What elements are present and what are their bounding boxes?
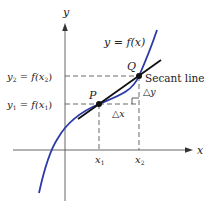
point-p (96, 101, 102, 107)
x-axis-label: x (197, 144, 204, 157)
x1-tick-label: x1 (95, 154, 104, 166)
y-axis-label: y (62, 6, 70, 19)
y2-level-label: y2 = f(x2) (6, 71, 52, 83)
point-p-label: P (88, 89, 97, 102)
delta-x-label: △x (112, 108, 125, 119)
point-q (136, 73, 142, 79)
right-angle-marker (132, 98, 139, 104)
point-q-label: Q (127, 60, 136, 73)
delta-y-label: △y (143, 86, 156, 97)
x2-tick-label: x2 (135, 154, 145, 166)
dashed-guides (65, 76, 139, 150)
y-axis-arrow-icon (62, 23, 68, 31)
curve-label: y = f(x) (103, 36, 145, 49)
x-axis-arrow-icon (185, 147, 193, 153)
secant-line-diagram: x y P Q y = f(x) Secant line △y △x x1 x2… (0, 0, 215, 208)
y1-level-label: y1 = f(x1) (6, 99, 52, 111)
secant-label: Secant line (145, 72, 205, 84)
